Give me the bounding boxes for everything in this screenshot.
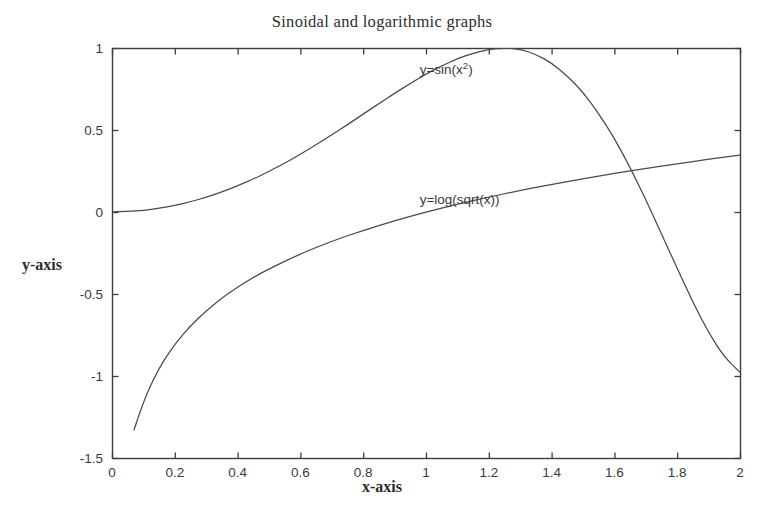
x-tick-label-7: 1.4 [542,465,561,480]
y-tick-label-2: 0 [95,205,103,220]
x-tick-label-6: 1.2 [479,465,498,480]
x-tick-label-9: 1.8 [668,465,687,480]
sine-curve-label: y=sin(x2) [420,62,473,77]
x-tick-label-2: 0.4 [228,465,247,480]
x-tick-label-10: 2 [736,465,744,480]
x-tick-label-0: 0 [108,465,116,480]
plot-canvas [0,0,764,511]
y-tick-label-5: -1.5 [80,451,103,466]
x-tick-label-5: 1 [422,465,430,480]
x-tick-label-4: 0.8 [354,465,373,480]
chart-figure: Sinoidal and logarithmic graphs y-axis x… [0,0,764,511]
y-tick-label-3: -0.5 [80,287,103,302]
plot-frame [113,49,741,459]
y-tick-label-4: -1 [91,369,103,384]
x-tick-label-8: 1.6 [605,465,624,480]
log-curve-label: y=log(sqrt(x)) [420,192,500,207]
x-tick-label-1: 0.2 [165,465,184,480]
y-tick-label-0: 1 [95,41,103,56]
x-tick-label-3: 0.6 [291,465,310,480]
y-tick-label-1: 0.5 [84,123,103,138]
